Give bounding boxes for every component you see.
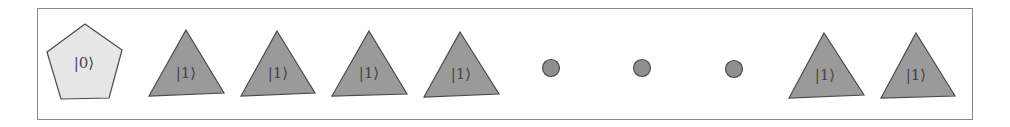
state-label: |1⟩ [268,64,288,82]
dot-ellipsis-2 [634,60,651,77]
diagram-canvas: |0⟩ |1⟩ |1⟩ |1⟩ |1⟩ |1⟩ |1⟩ [0,0,1010,127]
triangle-state-3: |1⟩ [332,31,407,96]
triangle-state-6: |1⟩ [881,33,955,98]
state-label: |0⟩ [74,54,94,72]
state-label: |1⟩ [359,64,379,82]
dot-ellipsis-3 [726,61,743,78]
state-label: |1⟩ [176,64,196,82]
state-label: |1⟩ [906,66,926,84]
state-label: |1⟩ [815,66,835,84]
triangle-state-1: |1⟩ [149,30,224,96]
state-label: |1⟩ [451,65,471,83]
triangle-state-5: |1⟩ [789,33,864,98]
dot-ellipsis-1 [543,60,560,77]
triangle-state-2: |1⟩ [241,31,315,96]
triangle-state-4: |1⟩ [424,32,499,97]
pentagon-state-0: |0⟩ [47,24,122,99]
